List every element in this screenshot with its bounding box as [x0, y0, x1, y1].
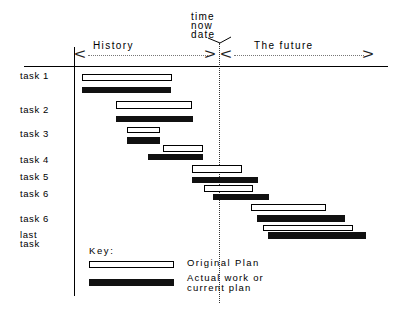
future-right-arrow-icon: >	[362, 47, 373, 61]
task-4-actual-bar	[148, 154, 203, 160]
task-5-actual-bar	[192, 177, 258, 183]
row-label-task-5: task 5	[20, 172, 49, 182]
history-label: History	[93, 41, 134, 51]
task-3-plan-bar	[127, 127, 160, 133]
row-label-task-3: task 3	[20, 129, 49, 139]
legend-title: Key:	[89, 246, 114, 256]
row-label-last-task-line-2: task	[20, 239, 40, 249]
last-task-actual-bar	[268, 232, 366, 239]
row-label-task-6a: task 6	[20, 189, 49, 199]
legend-actual-label-line-2: current plan	[187, 283, 252, 293]
history-span-dots	[88, 55, 208, 56]
row-label-task-2: task 2	[20, 105, 49, 115]
task-6b-plan-bar	[251, 204, 326, 211]
task-2-plan-bar	[116, 101, 192, 109]
future-label: The future	[254, 41, 314, 51]
task-3-actual-bar	[127, 137, 160, 144]
future-span-dots	[234, 55, 364, 56]
history-left-arrow-icon: <	[74, 47, 85, 61]
task-6b-actual-bar	[257, 215, 345, 222]
task-1-actual-bar	[82, 87, 171, 93]
task-6a-plan-bar	[204, 185, 253, 192]
row-label-task-1: task 1	[20, 71, 49, 81]
task-5-plan-bar	[192, 165, 242, 173]
history-right-arrow-icon: >	[204, 47, 215, 61]
legend-actual-swatch	[89, 279, 174, 286]
legend-plan-label: Original Plan	[187, 258, 260, 268]
header-divider	[24, 66, 388, 67]
row-label-task-4: task 4	[20, 155, 49, 165]
gantt-diagram: time now date History The future < > < >…	[0, 0, 393, 311]
task-6a-actual-bar	[213, 194, 269, 200]
task-4-plan-bar	[163, 145, 203, 152]
legend-plan-swatch	[89, 261, 174, 268]
last-task-plan-bar	[263, 225, 353, 231]
task-axis-line	[74, 47, 75, 296]
row-label-task-6b: task 6	[20, 214, 49, 224]
task-2-actual-bar	[116, 116, 193, 122]
future-left-arrow-icon: <	[220, 47, 231, 61]
task-1-plan-bar	[82, 74, 172, 81]
